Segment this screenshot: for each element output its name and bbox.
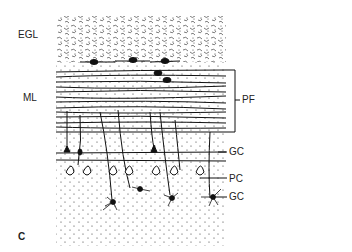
egl-layer xyxy=(56,16,226,62)
cortex-drawing xyxy=(0,0,352,252)
